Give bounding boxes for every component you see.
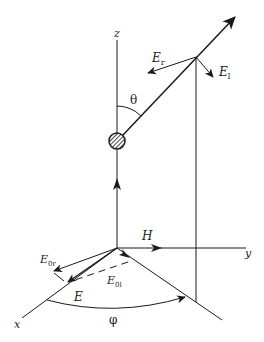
e-label: E	[73, 290, 83, 304]
e-l-label: El	[218, 65, 231, 81]
phi-label: φ	[109, 313, 117, 327]
y-axis-label: y	[244, 247, 252, 260]
e-0r-vector	[54, 248, 117, 271]
scattering-particle	[109, 133, 125, 149]
x-axis-label: x	[14, 318, 21, 331]
e-l-vector	[196, 57, 213, 77]
h-label: H	[141, 229, 153, 243]
theta-label: θ	[130, 93, 137, 107]
e-0l-label: E0l	[106, 274, 122, 289]
z-axis-label: z	[113, 27, 120, 40]
polar-angle-arc	[117, 106, 141, 116]
projection-line-horizontal	[117, 248, 222, 320]
scattering-diagram: z y x θ φ Er El H E0r E0l E	[0, 0, 264, 342]
azimuth-angle-arc	[47, 297, 185, 308]
e-0r-dashed	[54, 273, 64, 281]
e-r-label: Er	[151, 51, 165, 67]
e-0l-dashed	[72, 262, 128, 281]
e-0r-label: E0r	[39, 253, 56, 268]
